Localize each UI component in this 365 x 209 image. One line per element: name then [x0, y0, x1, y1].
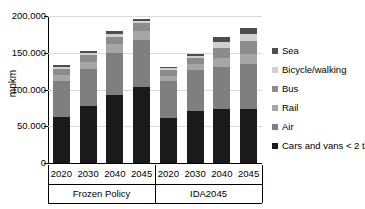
bar-segment	[53, 65, 70, 66]
y-tick-label: 150.000	[12, 48, 46, 58]
bar-segment	[187, 64, 204, 70]
bar-segment	[133, 40, 150, 87]
bar-segment	[160, 67, 177, 68]
bar-segment	[53, 69, 70, 75]
bar-segment	[160, 76, 177, 81]
bar-segment	[133, 21, 150, 23]
bar-segment	[213, 67, 230, 110]
legend-label: Sea	[282, 46, 299, 56]
x-axis-line	[48, 163, 262, 164]
y-tick-label: 0	[41, 158, 46, 168]
y-tick-label: 200.000	[12, 11, 46, 21]
bar-segment	[160, 81, 177, 118]
chart-legend: SeaBicycle/walkingBusRailAirCars and van…	[272, 41, 358, 155]
category-band-line	[48, 184, 262, 185]
bar-stack	[187, 16, 204, 163]
bar-segment	[187, 58, 204, 64]
legend-item[interactable]: Bus	[272, 79, 358, 98]
legend-label: Rail	[282, 103, 298, 113]
legend-swatch-icon	[272, 124, 278, 130]
bar-segment	[53, 81, 70, 117]
legend-item[interactable]: Air	[272, 117, 358, 136]
bar-segment	[240, 41, 257, 54]
legend-swatch-icon	[272, 48, 278, 54]
bar-stack	[106, 16, 123, 163]
bar-segment	[240, 34, 257, 41]
bar-segment	[213, 48, 230, 58]
legend-item[interactable]: Sea	[272, 41, 358, 60]
legend-item[interactable]: Rail	[272, 98, 358, 117]
bar-segment	[133, 31, 150, 41]
bar-segment	[187, 54, 204, 56]
legend-swatch-icon	[272, 143, 278, 149]
bar-segment	[240, 109, 257, 163]
legend-item[interactable]: Bicycle/walking	[272, 60, 358, 79]
bar-segment	[187, 56, 204, 58]
bar-segment	[187, 70, 204, 111]
legend-label: Air	[282, 122, 294, 132]
bar-segment	[133, 19, 150, 21]
x-group-label: IDA2045	[149, 188, 269, 199]
legend-swatch-icon	[272, 105, 278, 111]
bar-stack	[240, 16, 257, 163]
bar-stack	[213, 16, 230, 163]
legend-label: Bus	[282, 84, 298, 94]
bar-segment	[80, 62, 97, 69]
bar-segment	[133, 87, 150, 163]
bar-segment	[213, 42, 230, 48]
bar-segment	[53, 75, 70, 81]
bar-segment	[80, 51, 97, 53]
legend-label: Cars and vans < 2 t	[282, 141, 365, 151]
legend-swatch-icon	[272, 67, 278, 73]
bar-segment	[80, 55, 97, 62]
bar-stack	[80, 16, 97, 163]
bar-segment	[187, 111, 204, 163]
bar-segment	[160, 118, 177, 163]
legend-swatch-icon	[272, 86, 278, 92]
bar-segment	[240, 28, 257, 34]
bar-stack	[133, 16, 150, 163]
bar-segment	[213, 58, 230, 67]
bar-segment	[106, 31, 123, 33]
bar-segment	[106, 37, 123, 44]
bar-segment	[80, 106, 97, 163]
bar-segment	[80, 69, 97, 106]
bar-segment	[213, 109, 230, 163]
legend-item[interactable]: Cars and vans < 2 t	[272, 136, 358, 155]
bars-layer	[48, 16, 262, 163]
y-tick-label: 50.000	[17, 121, 46, 131]
bar-stack	[53, 16, 70, 163]
x-group-label: Frozen Policy	[42, 188, 162, 199]
bar-segment	[80, 53, 97, 55]
bar-segment	[160, 68, 177, 70]
bar-segment	[240, 54, 257, 64]
bar-segment	[133, 23, 150, 30]
legend-label: Bicycle/walking	[282, 65, 346, 75]
bar-segment	[106, 44, 123, 53]
bar-segment	[160, 70, 177, 76]
bar-segment	[53, 117, 70, 163]
bar-segment	[106, 34, 123, 37]
bar-segment	[106, 95, 123, 163]
bar-segment	[106, 53, 123, 95]
y-tick-label: 100.000	[12, 85, 46, 95]
bar-segment	[53, 67, 70, 69]
bar-segment	[213, 37, 230, 42]
category-band-line	[48, 203, 262, 204]
bar-stack	[160, 16, 177, 163]
bar-segment	[240, 64, 257, 109]
